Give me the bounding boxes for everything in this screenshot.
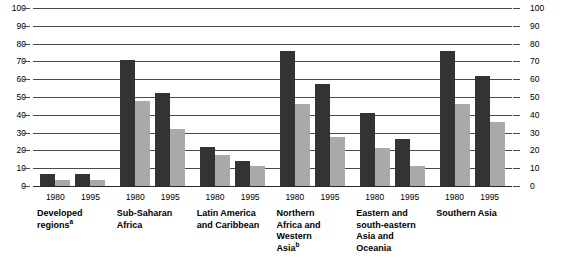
bar-eastern-and-south-eastern-asia-and-oceania-1980-dark [360,113,375,186]
bar-eastern-and-south-eastern-asia-and-oceania-1995-dark [395,139,410,186]
x-axis-category-line: south-eastern [356,220,442,232]
bar-northern-africa-and-western-asia-1995-dark [315,84,330,186]
x-axis-year-label: 1980 [195,192,235,202]
y-axis-right-tick: 90 [530,22,539,31]
y-axis-right-tick: 40 [530,111,539,120]
y-axis-right-tick: 20 [530,146,539,155]
bar-developed-regions-1995-dark [75,174,90,186]
x-axis-category-line: Eastern and [356,208,442,220]
bar-southern-asia-1995-dark [475,76,490,186]
bar-northern-africa-and-western-asia-1980-light [295,104,310,186]
x-axis-year-label: 1995 [230,192,270,202]
x-axis-year-label: 1995 [310,192,350,202]
y-axis-right: 100 90 80 70 60 50 40 30 20 10 0 [520,8,556,186]
bar-southern-asia-1980-light [455,104,470,186]
y-axis-right-tick: 0 [530,182,535,191]
x-axis-category-line: Asia and [356,231,442,243]
footnote-marker: b [296,241,300,248]
y-axis-right-tick: 60 [530,75,539,84]
x-axis-category-label: Southern Asia [436,208,522,220]
x-axis-category-line: Asiab [277,243,363,255]
y-axis-right-tick: 80 [530,40,539,49]
bar-eastern-and-south-eastern-asia-and-oceania-1995-light [410,166,425,186]
x-axis-category-label: Latin Americaand Caribbean [197,208,283,231]
gridline-90 [33,26,512,27]
x-axis-year-label: 1995 [470,192,510,202]
x-axis-category-line: Sub-Saharan [117,208,203,220]
x-axis-category-label: Eastern andsouth-easternAsia andOceania [356,208,442,254]
x-axis-category-line: Latin America [197,208,283,220]
bar-latin-america-and-caribbean-1980-dark [200,147,215,186]
bar-northern-africa-and-western-asia-1980-dark [280,51,295,186]
y-axis-right-tick: 50 [530,93,539,102]
y-axis-right-tick: 70 [530,57,539,66]
y-axis-right-tick: 30 [530,129,539,138]
x-axis-category-line: Africa [117,220,203,232]
gridline-0 [33,186,512,187]
x-axis-category-line: Northern [277,208,363,220]
bar-southern-asia-1980-dark [440,51,455,186]
bar-developed-regions-1980-dark [40,174,55,186]
x-axis-category-line: Developed [37,208,123,220]
bar-chart: 100 90 80 70 60 50 40 30 20 10 0 [0,0,561,269]
x-axis-year-label: 1995 [390,192,430,202]
bar-sub-saharan-africa-1980-dark [120,60,135,186]
x-axis-year-label: 1980 [435,192,475,202]
plot-area [33,8,512,186]
x-axis-year-label: 1995 [70,192,110,202]
y-axis-right-tick: 10 [530,164,539,173]
x-axis-category-line: Southern Asia [436,208,522,220]
bar-northern-africa-and-western-asia-1995-light [330,137,345,186]
bar-latin-america-and-caribbean-1980-light [215,155,230,186]
bar-eastern-and-south-eastern-asia-and-oceania-1980-light [375,148,390,186]
x-axis-year-label: 1980 [115,192,155,202]
bar-sub-saharan-africa-1995-light [170,129,185,186]
x-axis-category-line: Western [277,231,363,243]
bar-latin-america-and-caribbean-1995-light [250,166,265,186]
footnote-marker: a [70,218,74,225]
x-axis-category-line: Africa and [277,220,363,232]
x-axis-year-label: 1995 [150,192,190,202]
chart-footnote [2,259,558,269]
bar-latin-america-and-caribbean-1995-dark [235,161,250,186]
bar-developed-regions-1995-light [90,180,105,186]
x-axis-category-line: and Caribbean [197,220,283,232]
gridline-100 [33,8,512,9]
x-axis-category-label: NorthernAfrica andWesternAsiab [277,208,363,254]
bar-sub-saharan-africa-1995-dark [155,93,170,186]
x-axis-category-label: Sub-SaharanAfrica [117,208,203,231]
x-axis-category-line: Oceania [356,243,442,255]
x-axis-year-label: 1980 [35,192,75,202]
x-axis-category-line: regionsa [37,220,123,232]
y-axis-right-tick: 100 [530,4,544,13]
gridline-80 [33,44,512,45]
bar-developed-regions-1980-light [55,180,70,186]
x-axis-year-label: 1980 [275,192,315,202]
x-axis-category-label: Developedregionsa [37,208,123,231]
bar-southern-asia-1995-light [490,122,505,186]
bar-sub-saharan-africa-1980-light [135,101,150,186]
x-axis-year-label: 1980 [355,192,395,202]
